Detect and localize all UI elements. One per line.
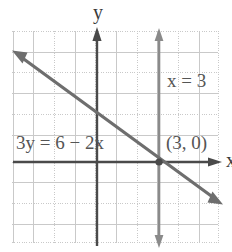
x-axis — [13, 157, 222, 166]
vertical-line-label: x = 3 — [167, 71, 206, 90]
graph-figure: 3y = 6 − 2x x = 3 (3, 0) y x — [0, 0, 232, 252]
point-label: (3, 0) — [166, 133, 207, 152]
x-axis-label: x — [226, 150, 232, 170]
vertical-line-x-equals-3 — [155, 28, 164, 248]
coordinate-plane-svg — [0, 0, 232, 252]
intersection-point-marker — [155, 158, 162, 165]
y-axis-label: y — [93, 2, 103, 22]
equation-label: 3y = 6 − 2x — [16, 133, 104, 152]
